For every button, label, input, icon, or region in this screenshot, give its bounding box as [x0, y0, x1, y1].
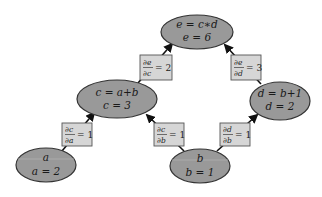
label-de-dc-num: ∂e	[143, 58, 152, 67]
node-c-value: c = 3	[103, 99, 131, 111]
label-dc-da-eq: = 1	[77, 130, 93, 140]
node-a-expr: a	[43, 151, 49, 163]
node-a-value: a = 2	[32, 165, 61, 177]
node-e-value: e = 6	[183, 31, 212, 43]
label-dd-db: ∂d ∂b = 1	[220, 123, 251, 146]
label-dc-da: ∂c ∂a = 1	[62, 123, 93, 146]
label-dc-db-den: ∂b	[157, 136, 166, 145]
node-a: a a = 2	[16, 148, 76, 182]
label-de-dd-num: ∂e	[234, 58, 243, 67]
node-c-expr: c = a+b	[95, 86, 138, 98]
label-dc-db: ∂c ∂b = 1	[154, 123, 185, 146]
graph-svg: e = c∗d e = 6 c = a+b c = 3 d = b+1 d = …	[0, 0, 322, 197]
node-c: c = a+b c = 3	[77, 80, 157, 118]
label-dd-db-eq: = 1	[235, 130, 251, 140]
label-dc-da-num: ∂c	[65, 125, 74, 134]
label-de-dd: ∂e ∂d = 3	[231, 55, 262, 80]
label-de-dc-eq: = 2	[155, 63, 171, 73]
label-dc-db-num: ∂c	[157, 125, 166, 134]
node-d-expr: d = b+1	[258, 87, 302, 99]
computational-graph: e = c∗d e = 6 c = a+b c = 3 d = b+1 d = …	[0, 0, 322, 197]
node-b-value: b = 1	[186, 166, 215, 178]
node-b-expr: b	[197, 152, 204, 164]
label-de-dc: ∂e ∂c = 2	[140, 55, 172, 80]
label-dc-db-eq: = 1	[169, 130, 185, 140]
node-e-expr: e = c∗d	[176, 18, 218, 30]
node-d-value: d = 2	[266, 100, 295, 112]
node-b: b b = 1	[170, 149, 230, 183]
label-dc-da-den: ∂a	[65, 136, 73, 145]
label-dd-db-den: ∂b	[223, 136, 232, 145]
node-d: d = b+1 d = 2	[250, 82, 310, 120]
label-de-dc-den: ∂c	[143, 69, 152, 78]
label-de-dd-den: ∂d	[234, 69, 243, 78]
node-e: e = c∗d e = 6	[161, 15, 233, 49]
label-de-dd-eq: = 3	[246, 63, 262, 73]
label-dd-db-num: ∂d	[223, 125, 232, 134]
